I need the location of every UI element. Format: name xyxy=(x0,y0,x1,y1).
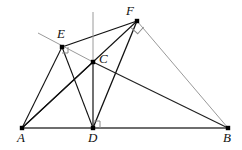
geometry-figure: A B C D E F xyxy=(0,0,242,150)
right-angle-marks-layer xyxy=(62,21,144,128)
vertex-label-f: F xyxy=(126,4,134,17)
vertex-label-d: D xyxy=(88,131,97,144)
segment-EF xyxy=(62,21,137,47)
segment-FD xyxy=(93,21,137,128)
segment-AE xyxy=(22,47,62,128)
vertex-label-a: A xyxy=(17,131,25,144)
vertex-label-c: C xyxy=(99,52,108,65)
segment-AC xyxy=(22,62,93,128)
geometry-canvas xyxy=(0,0,242,150)
vertex-marker-f xyxy=(135,19,139,23)
segment-CB xyxy=(93,62,228,128)
vertex-label-b: B xyxy=(223,131,231,144)
vertex-marker-e xyxy=(60,45,64,49)
segments-layer xyxy=(22,12,228,128)
segment-FB xyxy=(137,21,228,128)
vertex-marker-c xyxy=(91,60,95,64)
vertex-label-e: E xyxy=(57,27,65,40)
